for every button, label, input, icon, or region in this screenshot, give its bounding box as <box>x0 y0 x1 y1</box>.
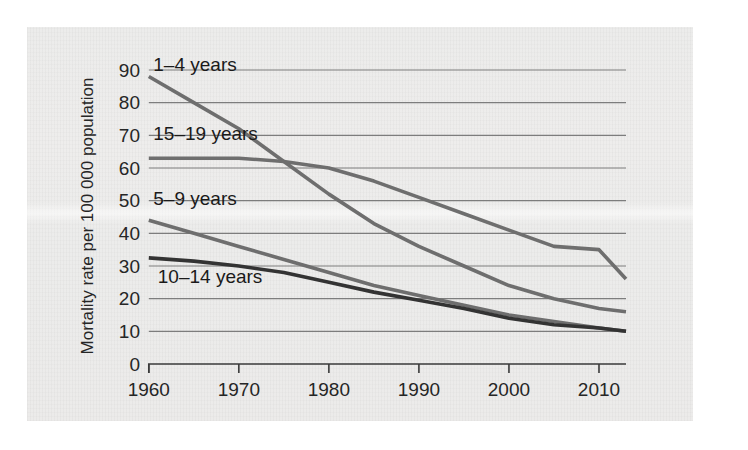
x-tick-label-1990: 1990 <box>398 379 440 400</box>
y-tick-label-60: 60 <box>119 158 140 179</box>
y-tick-label-90: 90 <box>119 60 140 81</box>
y-tick-label-70: 70 <box>119 125 140 146</box>
x-tick-label-2000: 2000 <box>488 379 530 400</box>
line-chart: 0102030405060708090 19601970198019902000… <box>0 0 748 450</box>
y-tick-label-10: 10 <box>119 321 140 342</box>
series-label-3: 5–9 years <box>153 188 236 209</box>
x-axis-ticks <box>149 364 599 373</box>
axes <box>148 364 626 373</box>
x-tick-label-1960: 1960 <box>128 379 170 400</box>
y-tick-label-50: 50 <box>119 190 140 211</box>
y-tick-label-80: 80 <box>119 92 140 113</box>
series-label-2: 15–19 years <box>153 123 258 144</box>
y-tick-label-30: 30 <box>119 256 140 277</box>
y-tick-label-0: 0 <box>129 354 140 375</box>
y-tick-label-40: 40 <box>119 223 140 244</box>
x-tick-label-2010: 2010 <box>578 379 620 400</box>
x-axis-tick-labels: 196019701980199020002010 <box>128 379 620 400</box>
series-line-2 <box>149 158 626 279</box>
figure-container: 0102030405060708090 19601970198019902000… <box>0 0 748 450</box>
y-axis-title: Mortality rate per 100 000 population <box>78 78 97 355</box>
x-tick-label-1970: 1970 <box>218 379 260 400</box>
x-tick-label-1980: 1980 <box>308 379 350 400</box>
series-label-4: 10–14 years <box>158 266 263 287</box>
series-label-1: 1–4 years <box>153 54 236 75</box>
y-tick-label-20: 20 <box>119 288 140 309</box>
y-axis-tick-labels: 0102030405060708090 <box>119 60 140 375</box>
